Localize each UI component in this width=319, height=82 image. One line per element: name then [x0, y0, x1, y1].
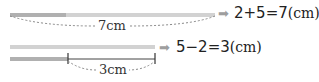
- bottom-equation: 5−2=3(cm): [176, 38, 262, 56]
- top-equation-expression: 2+5=7: [234, 4, 288, 22]
- top-total-label: 7cm: [96, 19, 128, 33]
- bottom-equation-unit: (cm): [230, 39, 262, 55]
- bottom-arrow-icon: ➡: [159, 40, 170, 55]
- top-equation: 2+5=7(cm): [234, 4, 319, 22]
- bottom-tapes: [10, 45, 155, 70]
- bottom-equation-expression: 5−2=3: [176, 38, 230, 56]
- top-equation-unit: (cm): [288, 5, 319, 21]
- bottom-difference-label: 3cm: [97, 63, 129, 77]
- top-arrow-icon: ➡: [218, 6, 229, 21]
